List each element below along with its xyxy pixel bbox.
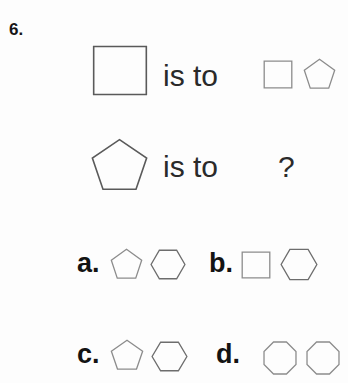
stem-row2-pentagon-large-shape <box>90 138 149 192</box>
stem-row1-square-small-shape <box>263 60 293 89</box>
stem-row2-relation-text: is to <box>163 152 218 182</box>
stem-row2-question-mark: ? <box>278 152 295 182</box>
option-a-pentagon-shape[interactable] <box>110 248 143 280</box>
option-a-label[interactable]: a. <box>77 250 100 277</box>
option-d-label[interactable]: d. <box>216 341 240 368</box>
option-d-octagon-second-shape[interactable] <box>306 341 340 375</box>
stem-row1-square-large-shape <box>92 45 148 96</box>
option-c-label[interactable]: c. <box>77 341 100 368</box>
option-d-octagon-first-shape[interactable] <box>263 341 297 375</box>
option-b-label[interactable]: b. <box>209 250 233 277</box>
option-b-hexagon-shape[interactable] <box>280 248 318 281</box>
worksheet-page: 6. is to is to ? a. b. <box>0 0 348 383</box>
option-c-pentagon-shape[interactable] <box>110 339 144 371</box>
stem-row1-relation-text: is to <box>163 61 218 91</box>
stem-row1-pentagon-small-shape <box>303 58 336 90</box>
question-number: 6. <box>9 21 23 38</box>
option-b-square-shape[interactable] <box>241 251 271 279</box>
option-c-hexagon-shape[interactable] <box>151 341 188 372</box>
option-a-hexagon-shape[interactable] <box>150 249 186 280</box>
